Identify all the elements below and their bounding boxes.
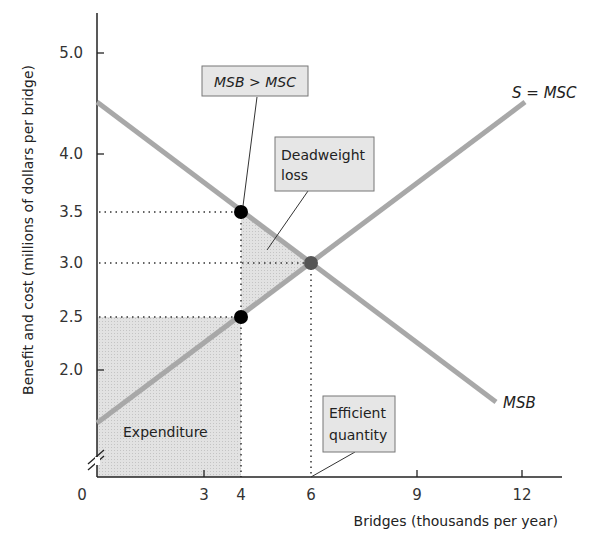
msc-label: S = MSC: [512, 84, 577, 102]
point-equilibrium: [304, 256, 318, 270]
y-axis-title: Benefit and cost (millions of dollars pe…: [20, 65, 36, 395]
point-msc-4: [234, 310, 248, 324]
msb-gt-msc-label: MSB > MSC: [214, 74, 296, 90]
y-tick-5-0: 5.0: [59, 44, 83, 62]
efficient-quantity-label-line1: Efficient: [329, 405, 386, 421]
point-msb-4: [234, 205, 248, 219]
deadweight-loss-label-line1: Deadweight: [281, 147, 366, 163]
expenditure-area: [97, 317, 241, 477]
y-tick-2-5: 2.5: [59, 308, 83, 326]
x-tick-0: 0: [77, 486, 87, 504]
x-tick-12: 12: [512, 486, 531, 504]
y-tick-4-0: 4.0: [59, 145, 83, 163]
chart: 5.0 4.0 3.5 3.0 2.5 2.0 0 3 4 6 9 12 Bri…: [0, 0, 594, 547]
efficient-quantity-label-line2: quantity: [329, 427, 387, 443]
deadweight-loss-label-line2: loss: [281, 167, 308, 183]
x-tick-3: 3: [199, 486, 209, 504]
y-tick-3-5: 3.5: [59, 203, 83, 221]
x-axis-title: Bridges (thousands per year): [354, 513, 558, 529]
x-tick-4: 4: [236, 486, 246, 504]
y-tick-3-0: 3.0: [59, 254, 83, 272]
x-tick-6: 6: [306, 486, 316, 504]
msb-label: MSB: [503, 394, 536, 412]
expenditure-label: Expenditure: [123, 424, 208, 440]
x-tick-9: 9: [412, 486, 422, 504]
deadweight-loss-area: [241, 212, 311, 317]
y-tick-2-0: 2.0: [59, 361, 83, 379]
